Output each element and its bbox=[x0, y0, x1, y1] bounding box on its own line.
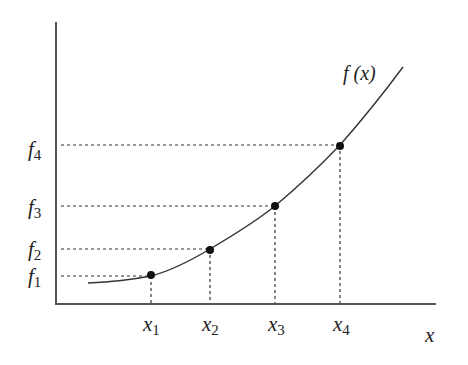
point-3 bbox=[271, 202, 279, 210]
x-label-x3: x3 bbox=[267, 312, 285, 338]
x-axis-label: x bbox=[424, 323, 435, 347]
point-4 bbox=[336, 142, 344, 150]
horizontal-guides bbox=[61, 145, 340, 276]
y-label-f2: f2 bbox=[28, 237, 41, 263]
point-2 bbox=[206, 246, 214, 254]
y-label-f3: f3 bbox=[28, 195, 41, 221]
function-curve bbox=[88, 67, 403, 283]
x-label-x1: x1 bbox=[142, 312, 160, 338]
vertical-guides bbox=[151, 145, 340, 303]
function-label: f (x) bbox=[343, 62, 376, 85]
x-label-x4: x4 bbox=[332, 312, 350, 338]
function-diagram: f (x) f4 f3 f2 f1 x1 x2 x3 x4 x bbox=[0, 0, 468, 365]
y-label-f1: f1 bbox=[28, 264, 41, 290]
point-1 bbox=[147, 271, 155, 279]
y-label-f4: f4 bbox=[28, 137, 42, 163]
y-labels: f4 f3 f2 f1 bbox=[28, 137, 42, 290]
data-points bbox=[147, 142, 344, 279]
x-labels: x1 x2 x3 x4 x bbox=[142, 312, 435, 347]
x-label-x2: x2 bbox=[201, 312, 219, 338]
